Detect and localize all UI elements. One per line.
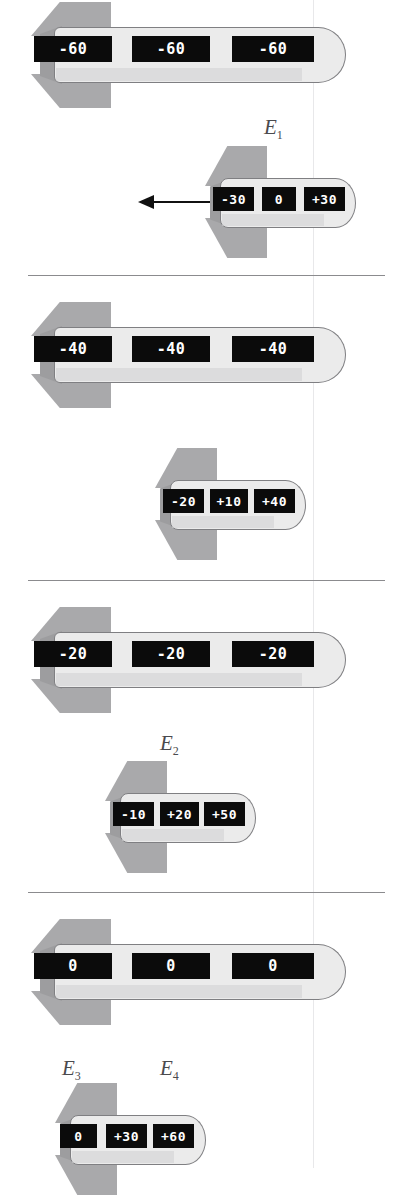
label-e1: E1 [264, 115, 283, 143]
body-shading [122, 829, 224, 841]
display-readout: 0 [132, 953, 210, 979]
display-readout: +30 [304, 187, 345, 211]
label-e3: E3 [62, 1056, 81, 1084]
display-readout: 0 [34, 953, 112, 979]
panel-1: -60 -60 -60 E1 -30 0 +30 [0, 0, 396, 275]
display-readout: 0 [60, 1124, 97, 1148]
label-e4: E4 [160, 1056, 179, 1084]
display-readout: -40 [34, 336, 112, 362]
label-e2-text: E [160, 731, 173, 755]
large-rocket: -20 -20 -20 [28, 607, 348, 717]
display-readout: -60 [232, 36, 314, 62]
display-readout: -60 [132, 36, 210, 62]
large-rocket: -40 -40 -40 [28, 302, 348, 412]
body-shading [56, 673, 302, 686]
display-readout: +30 [106, 1124, 147, 1148]
body-shading [56, 68, 302, 81]
large-rocket: 0 0 0 [28, 919, 348, 1029]
body-shading [172, 516, 274, 528]
display-readout: -10 [113, 802, 154, 826]
display-readout: -30 [213, 187, 254, 211]
label-e1-text: E [264, 115, 277, 139]
label-e3-text: E [62, 1056, 75, 1080]
display-readout: 0 [232, 953, 314, 979]
large-rocket: -60 -60 -60 [28, 2, 348, 112]
display-readout: +20 [160, 802, 199, 826]
label-e2: E2 [160, 731, 179, 759]
panel-3: -20 -20 -20 E2 -10 +20 +50 [0, 581, 396, 871]
body-shading [56, 985, 302, 998]
label-e4-text: E [160, 1056, 173, 1080]
velocity-arrow-head [138, 195, 154, 209]
display-readout: +40 [254, 489, 295, 513]
display-readout: -20 [34, 641, 112, 667]
small-rocket: -20 +10 +40 [142, 448, 312, 560]
display-readout: -40 [232, 336, 314, 362]
display-readout: 0 [262, 187, 296, 211]
label-e2-sub: 2 [173, 744, 179, 758]
display-readout: -20 [232, 641, 314, 667]
display-readout: +10 [210, 489, 248, 513]
display-readout: -20 [132, 641, 210, 667]
label-e1-sub: 1 [277, 128, 283, 142]
display-readout: -20 [163, 489, 204, 513]
display-readout: -60 [34, 36, 112, 62]
display-readout: -40 [132, 336, 210, 362]
panel-4: 0 0 0 E3 E4 0 +30 +60 [0, 893, 396, 1168]
small-rocket: 0 +30 +60 [42, 1083, 212, 1195]
body-shading [56, 368, 302, 381]
panel-2: -40 -40 -40 -20 +10 +40 [0, 276, 396, 566]
body-shading [222, 214, 324, 226]
small-rocket: -10 +20 +50 [92, 761, 262, 873]
small-rocket: -30 0 +30 [192, 146, 362, 258]
body-shading [72, 1151, 174, 1163]
label-e4-sub: 4 [173, 1069, 179, 1083]
display-readout: +60 [153, 1124, 194, 1148]
label-e3-sub: 3 [75, 1069, 81, 1083]
display-readout: +50 [204, 802, 245, 826]
